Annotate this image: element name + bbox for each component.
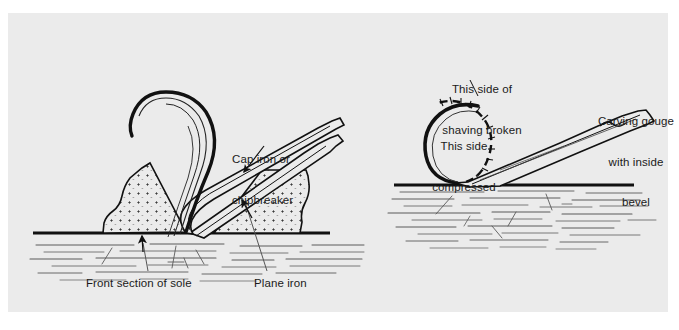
label-shaving-compressed-line2: compressed: [424, 181, 504, 195]
wood-grain-left: [30, 244, 364, 281]
label-front-section-of-sole: Front section of sole: [86, 277, 192, 291]
label-plane-iron: Plane iron: [254, 277, 307, 291]
label-shaving-broken-line1: This side of: [430, 83, 534, 97]
label-carving-gouge: Carving gouge with inside bevel: [593, 88, 679, 237]
sole-leader-arrow: [142, 236, 143, 252]
label-carving-gouge-line3: bevel: [593, 196, 679, 210]
label-carving-gouge-line2: with inside: [593, 156, 679, 170]
left-scene-bench-plane: [30, 92, 364, 281]
label-cap-iron-line2: chipbreaker: [232, 194, 293, 208]
label-shaving-compressed: This side compressed: [424, 113, 504, 221]
sole-leader-line: [143, 243, 148, 271]
label-cap-iron-chipbreaker: Cap iron or chipbreaker: [232, 126, 293, 234]
label-shaving-compressed-line1: This side: [424, 140, 504, 154]
label-cap-iron-line1: Cap iron or: [232, 153, 293, 167]
front-section-of-sole: [103, 163, 186, 233]
figure-container: Cap iron or chipbreaker Front section of…: [0, 0, 679, 330]
label-carving-gouge-line1: Carving gouge: [593, 115, 679, 129]
